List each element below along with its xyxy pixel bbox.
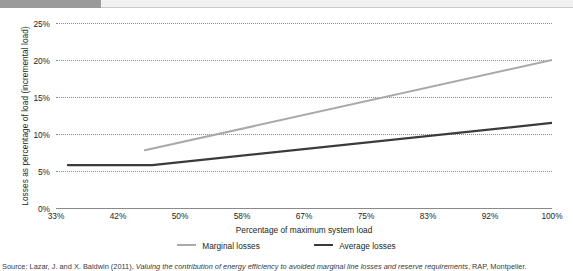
x-tick-label-83: 83% [408, 211, 448, 221]
plot-area [56, 23, 552, 208]
x-tick-label-67: 67% [284, 211, 324, 221]
x-tick-label-100: 100% [532, 211, 572, 221]
y-axis-title: Losses as percentage of load (incrementa… [20, 16, 30, 216]
x-axis-line [56, 208, 552, 209]
legend-swatch-average-icon [314, 244, 333, 246]
x-tick-label-33: 33% [36, 211, 76, 221]
y-tick-label-5: 5% [18, 167, 50, 177]
legend-label-marginal-losses: Marginal losses [202, 241, 260, 251]
legend-item-average-losses: Average losses [314, 240, 396, 251]
y-tick-label-25: 25% [18, 19, 50, 29]
legend-swatch-marginal-icon [177, 244, 196, 246]
y-tick-label-10: 10% [18, 130, 50, 140]
legend-item-marginal-losses: Marginal losses [177, 240, 260, 251]
x-tick-label-50: 50% [160, 211, 200, 221]
header-band-rule [101, 7, 573, 8]
y-tick-label-15: 15% [18, 93, 50, 103]
y-tick-label-20: 20% [18, 56, 50, 66]
x-tick-label-92: 92% [470, 211, 510, 221]
source-suffix: , RAP, Montpelier. [468, 262, 527, 271]
source-title: Valuing the contribution of energy effic… [136, 262, 468, 271]
x-tick-label-58: 58% [222, 211, 262, 221]
chart-figure: Losses as percentage of load (incrementa… [0, 9, 573, 271]
page-header-band [0, 0, 573, 9]
source-prefix: Source: Lazar, J. and X. Baldwin (2011), [2, 262, 136, 271]
x-axis-title: Percentage of maximum system load [56, 225, 552, 235]
header-band-dark-block [0, 0, 101, 8]
series-line-average-losses [68, 123, 552, 165]
x-tick-label-42: 42% [98, 211, 138, 221]
series-lines [56, 23, 552, 208]
x-tick-label-75: 75% [346, 211, 386, 221]
series-line-marginal-losses [145, 60, 552, 150]
source-note: Source: Lazar, J. and X. Baldwin (2011),… [2, 262, 573, 271]
chart-legend: Marginal losses Average losses [0, 240, 573, 251]
legend-label-average-losses: Average losses [339, 241, 396, 251]
